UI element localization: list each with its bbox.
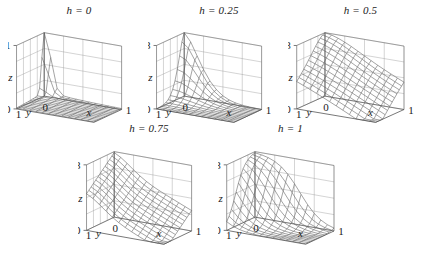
- y-axis-label: y: [305, 106, 311, 118]
- x-tick-min: 0: [112, 222, 118, 234]
- x-axis-label: x: [155, 227, 161, 239]
- surface-mesh: [227, 153, 334, 244]
- surface-mesh: [297, 33, 404, 123]
- y-axis-label: y: [165, 106, 171, 118]
- z-axis-label: z: [8, 71, 13, 83]
- x-tick-max: 1: [196, 225, 202, 237]
- z-tick-min: 0: [218, 224, 221, 236]
- x-tick-max: 1: [266, 104, 272, 116]
- surface-plot: 0.80z1y0x1: [288, 4, 433, 126]
- surface-mesh: [17, 33, 122, 122]
- z-tick-max: 0.8: [148, 39, 151, 51]
- x-tick-max: 1: [126, 104, 132, 116]
- x-tick-min: 0: [42, 101, 48, 113]
- x-axis-label: x: [367, 106, 373, 118]
- figure-3d-surface-grid: h = 010z1y0x1h = 0.250.80z1y0x1h = 0.50.…: [0, 0, 438, 253]
- y-tick-max: 1: [86, 229, 92, 241]
- surface-plot: 0.80z1y0x1: [148, 4, 290, 126]
- panel-h-1: h = 10.80z1y0x1: [218, 122, 363, 248]
- z-tick-max: 0.8: [78, 159, 81, 171]
- y-tick-max: 1: [156, 108, 162, 120]
- surface-plot: 10z1y0x1: [8, 4, 150, 126]
- z-tick-max: 0.8: [288, 39, 291, 51]
- z-axis-label: z: [78, 192, 83, 204]
- y-axis-label: y: [95, 227, 101, 239]
- panel-h-0: h = 010z1y0x1: [8, 4, 150, 126]
- z-tick-max: 1: [8, 39, 11, 51]
- surface-mesh: [87, 153, 192, 245]
- y-axis-label: y: [235, 227, 241, 239]
- x-tick-max: 1: [408, 104, 414, 116]
- x-tick-max: 1: [338, 225, 344, 237]
- y-tick-max: 1: [16, 108, 22, 120]
- x-tick-min: 0: [323, 101, 329, 113]
- z-tick-max: 0.8: [218, 159, 221, 171]
- surface-mesh: [157, 33, 262, 123]
- x-axis-label: x: [297, 227, 303, 239]
- z-tick-min: 0: [148, 103, 151, 115]
- panel-h-075: h = 0.750.80z1y0x1: [78, 122, 220, 248]
- x-tick-min: 0: [253, 222, 259, 234]
- surface-plot: 0.80z1y0x1: [218, 122, 363, 248]
- x-axis-label: x: [225, 106, 231, 118]
- y-tick-max: 1: [226, 229, 232, 241]
- panel-h-025: h = 0.250.80z1y0x1: [148, 4, 290, 126]
- z-tick-min: 0: [78, 224, 81, 236]
- x-tick-min: 0: [182, 101, 188, 113]
- z-axis-label: z: [218, 192, 223, 204]
- z-tick-min: 0: [288, 103, 291, 115]
- z-axis-label: z: [148, 71, 153, 83]
- z-tick-min: 0: [8, 103, 11, 115]
- z-axis-label: z: [288, 71, 293, 83]
- x-axis-label: x: [85, 106, 91, 118]
- panel-h-05: h = 0.50.80z1y0x1: [288, 4, 433, 126]
- y-tick-max: 1: [296, 108, 302, 120]
- y-axis-label: y: [25, 106, 31, 118]
- surface-plot: 0.80z1y0x1: [78, 122, 220, 248]
